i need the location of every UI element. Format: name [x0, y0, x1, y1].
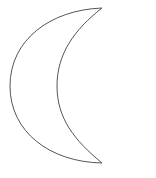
crescent-canvas [0, 0, 156, 178]
crescent-outline [10, 8, 102, 163]
crescent-moon-icon [0, 0, 156, 178]
